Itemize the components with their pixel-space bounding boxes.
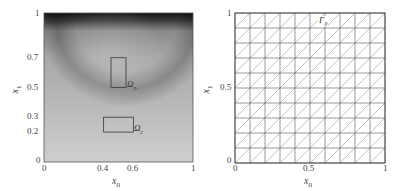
mesh-x-tick-0: 0 <box>233 164 238 173</box>
mesh-edge <box>235 13 250 28</box>
y-tick-0-5: 0.5 <box>27 83 38 92</box>
mesh-edge <box>265 73 280 88</box>
mesh-edge <box>295 148 310 163</box>
gamma-sub: 0 <box>324 21 327 27</box>
mesh-y-axis-label-base: x <box>200 89 211 93</box>
mesh-edge <box>295 133 310 148</box>
mesh-edge <box>250 28 265 43</box>
mesh-edge <box>340 88 355 103</box>
mesh-edge <box>265 88 280 103</box>
mesh-edge <box>370 88 385 103</box>
region-omega-c-label: Ωc <box>134 124 143 135</box>
mesh-edge <box>355 43 370 58</box>
mesh-edge <box>340 103 355 118</box>
mesh-edge <box>325 88 340 103</box>
mesh-edge <box>355 118 370 133</box>
mesh-edge <box>265 43 280 58</box>
x-tick-1: 1 <box>191 164 196 173</box>
mesh-edge <box>340 118 355 133</box>
mesh-edge <box>355 58 370 73</box>
mesh-edge <box>310 118 325 133</box>
boundary-gamma-0-label: Γ0 <box>318 16 328 27</box>
y-tick-0-7: 0.7 <box>27 53 38 62</box>
mesh-edge <box>280 28 295 43</box>
mesh-edge <box>340 58 355 73</box>
mesh-edge <box>265 28 280 43</box>
mesh-edge <box>310 43 325 58</box>
mesh-edge <box>250 103 265 118</box>
mesh-edge <box>235 118 250 133</box>
mesh-edge <box>340 133 355 148</box>
mesh-edge <box>235 58 250 73</box>
mesh-edge <box>250 118 265 133</box>
mesh-edge <box>325 43 340 58</box>
y-axis-label-sub: 1 <box>15 86 23 90</box>
mesh-edge <box>295 103 310 118</box>
mesh-edge <box>280 13 295 28</box>
x-tick-0-4: 0.4 <box>97 164 108 173</box>
y-axis-label-base: x <box>9 89 20 93</box>
y-axis-label: x1 <box>10 86 23 94</box>
mesh-edge <box>370 43 385 58</box>
mesh-edge <box>370 58 385 73</box>
mesh-edge <box>250 73 265 88</box>
mesh-edge <box>310 148 325 163</box>
mesh-x-axis-label-sub: 0 <box>308 181 312 189</box>
mesh-edge <box>325 133 340 148</box>
mesh-edge <box>295 43 310 58</box>
mesh-edge <box>265 148 280 163</box>
x-tick-0: 0 <box>42 164 47 173</box>
mesh-edge <box>325 118 340 133</box>
mesh-y-axis-label: x1 <box>201 86 214 94</box>
mesh-edge <box>280 118 295 133</box>
mesh-edge <box>340 28 355 43</box>
mesh-edge <box>310 103 325 118</box>
mesh-edge <box>280 133 295 148</box>
mesh-edge <box>295 58 310 73</box>
mesh-edge <box>355 148 370 163</box>
mesh-edge <box>265 133 280 148</box>
mesh-edge <box>295 118 310 133</box>
mesh-edge <box>310 28 325 43</box>
mesh-edge <box>340 43 355 58</box>
mesh-edge <box>265 13 280 28</box>
mesh-edge <box>280 88 295 103</box>
mesh-edge <box>280 73 295 88</box>
mesh-edge <box>325 148 340 163</box>
mesh-edge <box>325 28 340 43</box>
mesh-edge <box>250 43 265 58</box>
y-tick-0: 0 <box>36 156 41 165</box>
mesh-edge <box>340 148 355 163</box>
mesh-edge <box>235 28 250 43</box>
mesh-y-axis-label-sub: 1 <box>206 86 214 90</box>
mesh-edge <box>235 103 250 118</box>
mesh-x-tick-0-5: 0.5 <box>303 164 314 173</box>
y-tick-0-2: 0.2 <box>27 127 38 136</box>
mesh-y-tick-1: 1 <box>227 9 232 18</box>
x-tick-0-6: 0.6 <box>127 164 138 173</box>
mesh-edge <box>355 73 370 88</box>
y-tick-0-3: 0.3 <box>27 112 38 121</box>
mesh-edge <box>310 73 325 88</box>
mesh-edge <box>310 58 325 73</box>
mesh-edge <box>370 73 385 88</box>
mesh-x-tick-1: 1 <box>383 164 388 173</box>
mesh-edge <box>325 58 340 73</box>
mesh-edge <box>235 43 250 58</box>
mesh-edge <box>340 73 355 88</box>
mesh-edge <box>355 13 370 28</box>
mesh-edge <box>280 43 295 58</box>
mesh-y-tick-0-5: 0.5 <box>220 83 231 92</box>
mesh-edge <box>370 28 385 43</box>
mesh-edge <box>280 148 295 163</box>
y-tick-1: 1 <box>35 9 40 18</box>
mesh-edge <box>310 88 325 103</box>
mesh-edge <box>235 133 250 148</box>
mesh-edge <box>355 133 370 148</box>
mesh-edge <box>295 73 310 88</box>
mesh-edge <box>235 73 250 88</box>
region-omega-o-label: Ωo <box>127 80 137 91</box>
mesh-edge <box>265 58 280 73</box>
mesh-edge <box>370 148 385 163</box>
mesh-edge <box>265 118 280 133</box>
